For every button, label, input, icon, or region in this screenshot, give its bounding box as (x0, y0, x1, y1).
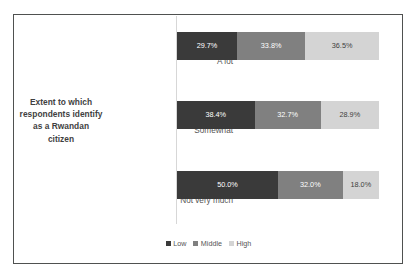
bar-segment-label: 33.8% (261, 42, 282, 49)
bar-segment-low[interactable]: 38.4% (177, 101, 255, 129)
legend-swatch-icon (229, 241, 234, 246)
legend-item-high[interactable]: High (229, 240, 251, 247)
bar-segment-middle[interactable]: 32.7% (255, 101, 321, 129)
bar-segment-label: 38.4% (205, 111, 226, 118)
legend-swatch-icon (166, 241, 171, 246)
bar-segment-middle[interactable]: 32.0% (278, 171, 343, 199)
bar-segment-low[interactable]: 50.0% (177, 171, 278, 199)
bar-segment-label: 36.5% (332, 42, 353, 49)
axis-title-line-4: citizen (5, 133, 117, 145)
bar-row: 29.7% 33.8% 36.5% (177, 32, 379, 60)
axis-title-line-1: Extent to which (5, 96, 117, 108)
plot-area: 29.7% 33.8% 36.5% 38.4% 32.7% 28.9% (176, 16, 379, 224)
bar-segment-label: 32.7% (277, 111, 298, 118)
legend-label: Middle (201, 240, 222, 247)
bar-segment-label: 28.9% (339, 111, 360, 118)
bar-segment-high[interactable]: 36.5% (305, 32, 379, 60)
legend-label: High (237, 240, 252, 247)
chart-legend: Low Middle High (0, 240, 417, 247)
axis-title-line-3: as a Rwandan (5, 120, 117, 132)
bar-segment-middle[interactable]: 33.8% (237, 32, 305, 60)
bar-segment-label: 32.0% (300, 181, 321, 188)
bar-segment-high[interactable]: 28.9% (321, 101, 379, 129)
bar-segment-label: 18.0% (350, 181, 371, 188)
legend-item-middle[interactable]: Middle (193, 240, 222, 247)
axis-title: Extent to which respondents identify as … (5, 96, 117, 145)
axis-title-line-2: respondents identify (5, 108, 117, 120)
bar-segment-label: 29.7% (197, 42, 218, 49)
bar-row: 50.0% 32.0% 18.0% (177, 171, 379, 199)
legend-item-low[interactable]: Low (166, 240, 187, 247)
bar-segment-high[interactable]: 18.0% (343, 171, 379, 199)
legend-swatch-icon (193, 241, 198, 246)
chart-figure: Extent to which respondents identify as … (0, 0, 417, 280)
bar-segment-label: 50.0% (217, 181, 238, 188)
legend-label: Low (173, 240, 186, 247)
bar-row: 38.4% 32.7% 28.9% (177, 101, 379, 129)
bar-segment-low[interactable]: 29.7% (177, 32, 237, 60)
